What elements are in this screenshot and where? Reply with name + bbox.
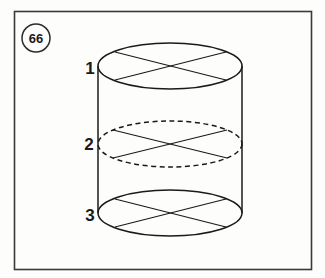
label-1: 1 [85, 59, 94, 78]
cylinder-diagram: 1 2 3 66 [0, 0, 325, 278]
label-2: 2 [84, 135, 93, 154]
figure-canvas: 1 2 3 66 [0, 0, 325, 278]
figure-frame [15, 12, 312, 270]
label-3: 3 [85, 206, 94, 225]
badge-number: 66 [29, 31, 43, 46]
